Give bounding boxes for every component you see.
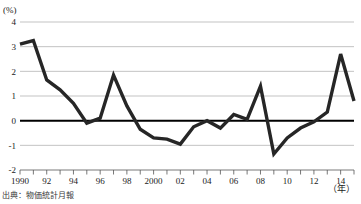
y-tick-label: 2 [12,67,17,77]
y-tick-label: 3 [12,42,17,52]
data-series-line [20,41,354,154]
y-tick-label: 0 [12,116,17,126]
x-axis-tick-labels: 199092949698200002040608101214 [11,176,346,186]
x-tick-label: 92 [42,176,51,186]
x-tick-label: 98 [122,176,132,186]
y-tick-label: 4 [12,17,17,27]
y-tick-label: -1 [9,141,17,151]
x-tick-label: 2000 [145,176,164,186]
x-axis-unit-label: （年） [328,185,355,194]
x-tick-label: 94 [69,176,79,186]
x-tick-label: 08 [256,176,266,186]
x-tick-label: 02 [176,176,185,186]
x-tick-label: 96 [96,176,106,186]
y-axis-tick-labels: -2-101234 [9,17,17,175]
x-axis [20,170,354,175]
chart-plot-area: -2-101234 199092949698200002040608101214 [0,0,361,204]
x-tick-label: 04 [203,176,213,186]
price-index-line-chart: (%) -2-101234 19909294969820000204060810… [0,0,361,204]
source-note: 出典：物価統計月報 [2,192,74,201]
series-polyline [20,41,354,154]
x-tick-label: 12 [309,176,318,186]
x-tick-label: 1990 [11,176,30,186]
y-tick-label: 1 [12,91,17,101]
x-tick-label: 10 [283,176,293,186]
y-tick-label: -2 [9,165,17,175]
x-tick-label: 06 [229,176,239,186]
